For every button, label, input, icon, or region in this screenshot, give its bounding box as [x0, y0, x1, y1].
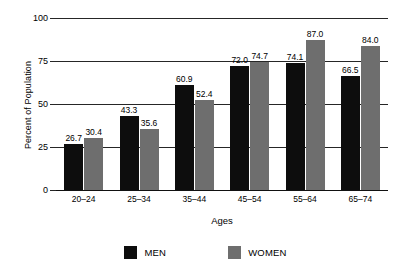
y-tick-mark: [50, 190, 56, 191]
bar-women: 74.7: [250, 62, 269, 190]
bar-women: 84.0: [361, 46, 380, 190]
bar-women: 52.4: [195, 100, 214, 190]
y-tick-label: 100: [20, 14, 48, 23]
legend-label-women: WOMEN: [248, 247, 286, 258]
bar-men: 43.3: [120, 116, 139, 190]
legend-item-women: WOMEN: [228, 246, 286, 259]
bar-women: 30.4: [84, 138, 103, 190]
bar-value-label: 74.1: [287, 53, 304, 62]
bar-group: 43.335.6: [120, 18, 159, 190]
bar-value-label: 72.0: [231, 56, 248, 65]
bar-women: 87.0: [306, 40, 325, 190]
bar-men: 66.5: [341, 76, 360, 190]
bar-value-label: 66.5: [342, 66, 359, 75]
legend-swatch-women-icon: [228, 246, 241, 259]
plot-area: 0255075100 26.730.443.335.660.952.472.07…: [56, 18, 388, 190]
bar-value-label: 43.3: [121, 106, 138, 115]
x-tick-label: 65–74: [325, 195, 395, 204]
bar-value-label: 74.7: [251, 52, 268, 61]
y-tick-label: 25: [20, 143, 48, 152]
legend-swatch-men-icon: [124, 246, 137, 259]
x-axis-title: Ages: [56, 215, 388, 226]
bar-value-label: 52.4: [196, 90, 213, 99]
bar-group: 72.074.7: [230, 18, 269, 190]
bar-groups: 26.730.443.335.660.952.472.074.774.187.0…: [56, 18, 388, 190]
legend-label-men: MEN: [144, 247, 166, 258]
bar-men: 26.7: [64, 144, 83, 190]
y-tick-label: 50: [20, 100, 48, 109]
bar-men: 74.1: [286, 63, 305, 190]
bar-value-label: 35.6: [141, 119, 158, 128]
y-tick-label: 75: [20, 57, 48, 66]
bar-group: 60.952.4: [175, 18, 214, 190]
bar-chart: Percent of Population 0255075100 26.730.…: [0, 0, 411, 279]
y-tick-label: 0: [20, 186, 48, 195]
legend-item-men: MEN: [124, 246, 166, 259]
bar-group: 74.187.0: [286, 18, 325, 190]
bar-value-label: 26.7: [65, 134, 82, 143]
bar-value-label: 84.0: [362, 36, 379, 45]
bar-value-label: 30.4: [85, 128, 102, 137]
bar-women: 35.6: [140, 129, 159, 190]
bar-group: 26.730.4: [64, 18, 103, 190]
bar-group: 66.584.0: [341, 18, 380, 190]
bar-men: 60.9: [175, 85, 194, 190]
bar-value-label: 60.9: [176, 75, 193, 84]
chart-legend: MEN WOMEN: [0, 246, 411, 259]
bar-value-label: 87.0: [307, 30, 324, 39]
bar-men: 72.0: [230, 66, 249, 190]
gridline: [56, 190, 388, 191]
